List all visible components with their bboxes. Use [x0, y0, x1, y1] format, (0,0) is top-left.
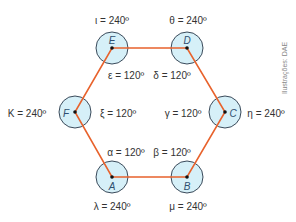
angle-label-lambda: λ = 240º	[94, 201, 131, 212]
circles	[59, 32, 241, 193]
hexagon-edges	[75, 48, 225, 177]
angle-label-xi: ξ = 120º	[100, 108, 136, 119]
angle-label-alpha: α = 120º	[107, 147, 145, 158]
angle-label-mu: μ = 240º	[169, 201, 207, 212]
vertex-label-c: C	[229, 108, 236, 119]
vertex-dots	[73, 46, 227, 179]
vertex-dot-f	[73, 110, 77, 114]
angle-label-gamma: γ = 120º	[165, 108, 202, 119]
vertex-dot-a	[110, 175, 114, 179]
vertex-label-d: D	[183, 35, 190, 46]
vertex-dot-c	[223, 110, 227, 114]
vertex-dot-e	[110, 46, 114, 50]
angle-label-theta: θ = 240º	[169, 15, 206, 26]
vertex-label-f: F	[63, 108, 69, 119]
angle-label-beta: β = 120º	[153, 147, 191, 158]
angle-label-iota: ι = 240º	[95, 15, 129, 26]
angle-label-epsilon: ε = 120º	[108, 70, 144, 81]
vertex-label-b: B	[184, 181, 191, 192]
angle-label-kappa: K = 240º	[8, 108, 46, 119]
illustration-credit: Ilustrações: DAE	[281, 42, 288, 94]
angle-label-delta: δ = 120º	[153, 70, 190, 81]
vertex-dot-b	[185, 175, 189, 179]
vertex-label-e: E	[109, 35, 116, 46]
vertex-label-a: A	[109, 181, 116, 192]
angle-label-eta: η = 240º	[247, 108, 284, 119]
vertex-dot-d	[185, 46, 189, 50]
